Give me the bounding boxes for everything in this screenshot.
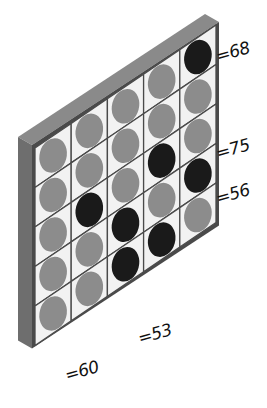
puzzle-stage: =68 =75 =56 =60 =53 [0,0,267,408]
board-frame-side [18,137,32,349]
